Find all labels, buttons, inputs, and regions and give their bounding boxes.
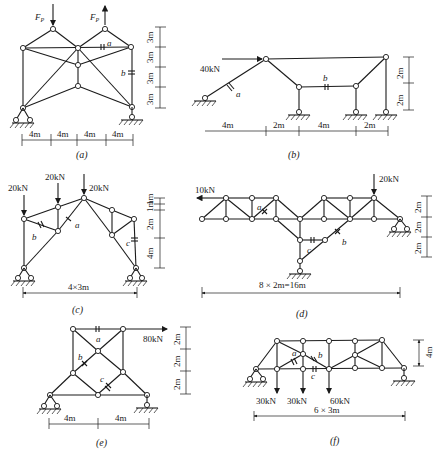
- figure-caption: (b): [288, 149, 300, 161]
- svg-text:8 × 2m=16m: 8 × 2m=16m: [259, 280, 306, 290]
- dimension-vertical: 2m 2m 2m: [413, 196, 432, 257]
- dimension-horizontal: 4m 4m: [49, 413, 149, 429]
- load-label: 30kN: [287, 396, 308, 406]
- svg-text:4m: 4m: [318, 120, 330, 130]
- dimension-horizontal: 8 × 2m=16m: [202, 280, 400, 298]
- load-label: 20kN: [89, 183, 110, 193]
- member-label-b: b: [32, 232, 37, 242]
- svg-text:4×3m: 4×3m: [68, 282, 89, 292]
- support-a: [192, 101, 216, 106]
- member-label-a: a: [96, 334, 101, 344]
- pin-support-right: [123, 268, 147, 286]
- member-label-a: a: [236, 89, 241, 99]
- figure-f: a b c: [243, 337, 434, 447]
- load-label: 20kN: [8, 183, 29, 193]
- truss-members: [23, 29, 132, 108]
- dimension-vertical: 2m 2m: [395, 57, 414, 110]
- load-label: 20kN: [45, 172, 66, 182]
- svg-text:2m: 2m: [172, 355, 182, 367]
- figure-c: a b c 20kN: [8, 172, 165, 316]
- svg-text:4m: 4m: [84, 129, 96, 139]
- member-label-c: c: [100, 374, 104, 384]
- figure-b: a b 40kN 4m 2m 4m 2m: [192, 54, 414, 161]
- load-label-fp-2: FP: [89, 12, 100, 23]
- svg-text:2m: 2m: [395, 67, 405, 79]
- svg-text:2m: 2m: [413, 221, 423, 233]
- support: [286, 115, 310, 120]
- figure-caption: (d): [296, 308, 308, 320]
- dimension-horizontal: 6 × 3m: [254, 405, 405, 421]
- svg-text:2m: 2m: [273, 120, 285, 130]
- dimension-vertical: 3m 3m 3m 3m: [145, 27, 166, 108]
- support: [373, 115, 397, 120]
- truss-joints: [21, 195, 138, 270]
- dimension-vertical: 1m 1m 2m 4m: [145, 193, 165, 268]
- truss-members: [24, 198, 136, 268]
- member-label-b: b: [342, 237, 347, 247]
- svg-text:6 × 3m: 6 × 3m: [314, 405, 340, 415]
- svg-text:3m: 3m: [145, 93, 155, 105]
- svg-text:2m: 2m: [413, 201, 423, 213]
- dimension-horizontal: 4m 4m 4m 4m: [22, 129, 133, 146]
- svg-text:2m: 2m: [413, 242, 423, 254]
- dimension-vertical: 4m: [413, 340, 434, 366]
- member-label-a: a: [292, 348, 297, 358]
- svg-text:4m: 4m: [145, 247, 155, 259]
- svg-text:2m: 2m: [172, 378, 182, 390]
- svg-text:2m: 2m: [145, 218, 155, 230]
- pin-support-left: [10, 108, 34, 128]
- svg-text:3m: 3m: [145, 72, 155, 84]
- svg-text:4m: 4m: [112, 129, 124, 139]
- dimension-horizontal: 4m 2m 4m 2m: [205, 120, 388, 136]
- load-label: 10kN: [195, 185, 216, 195]
- figure-a: a b FP FP: [10, 4, 166, 161]
- truss-joints: [253, 337, 406, 371]
- load-label: 80kN: [143, 334, 164, 344]
- svg-text:1m: 1m: [145, 200, 155, 212]
- figure-caption: (c): [72, 304, 84, 316]
- svg-text:2m: 2m: [364, 120, 376, 130]
- truss-members: [256, 340, 404, 369]
- figure-d: a b c: [195, 174, 432, 320]
- truss-members: [205, 57, 386, 112]
- pin-support-left: [11, 268, 35, 286]
- member-label-a: a: [257, 202, 262, 212]
- svg-text:4m: 4m: [222, 120, 234, 130]
- figure-caption: (e): [96, 437, 108, 449]
- member-label-a: a: [75, 220, 80, 230]
- member-label-c: c: [307, 245, 311, 255]
- svg-text:3m: 3m: [145, 51, 155, 63]
- figure-e: a b c 80kN: [37, 326, 191, 449]
- load-label: 20kN: [379, 174, 400, 184]
- dimension-horizontal: 4×3m: [23, 282, 137, 298]
- member-label-a: a: [107, 38, 112, 48]
- svg-text:4m: 4m: [115, 413, 127, 423]
- figure-caption: (f): [330, 435, 340, 447]
- svg-text:4m: 4m: [29, 129, 41, 139]
- member-label-b: b: [121, 68, 126, 78]
- load-label: 40kN: [200, 64, 221, 74]
- svg-text:4m: 4m: [64, 413, 76, 423]
- truss-joints: [199, 195, 402, 273]
- member-label-c: c: [311, 371, 315, 381]
- member-label-c: c: [126, 238, 130, 248]
- member-label-b: b: [318, 350, 323, 360]
- svg-text:4m: 4m: [57, 129, 69, 139]
- svg-text:3m: 3m: [145, 31, 155, 43]
- load-label-fp-1: FP: [34, 12, 45, 23]
- load-label: 30kN: [256, 396, 277, 406]
- support-bottom: [287, 274, 311, 279]
- member-label-b: b: [323, 73, 328, 83]
- figure-caption: (a): [76, 149, 88, 161]
- svg-text:2m: 2m: [395, 94, 405, 106]
- svg-text:4m: 4m: [424, 346, 434, 358]
- dimension-vertical: 2m 2m 2m: [172, 327, 191, 394]
- svg-text:2m: 2m: [172, 333, 182, 345]
- member-label-b: b: [78, 352, 83, 362]
